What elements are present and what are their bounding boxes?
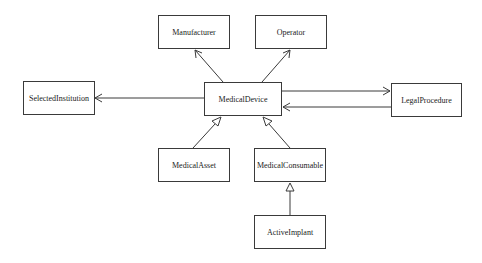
- uml-class-diagram: Manufacturer Operator SelectedInstitutio…: [0, 0, 482, 263]
- class-name: MedicalConsumable: [257, 161, 323, 170]
- class-name: MedicalDevice: [219, 95, 268, 104]
- class-name: SelectedInstitution: [29, 94, 89, 103]
- class-activeimplant: ActiveImplant: [254, 215, 326, 249]
- class-selectedinstitution: SelectedInstitution: [23, 81, 95, 115]
- edge-legalprocedure-to-device: [283, 103, 391, 111]
- edge-consumable-generalizes-device: [263, 117, 290, 148]
- edge-device-to-selectedinstitution: [95, 94, 204, 102]
- class-name: LegalProcedure: [401, 96, 452, 105]
- class-legalprocedure: LegalProcedure: [391, 83, 462, 117]
- edge-device-to-operator: [262, 50, 290, 82]
- class-name: ActiveImplant: [267, 228, 313, 237]
- class-medicalasset: MedicalAsset: [158, 148, 230, 182]
- edge-implant-generalizes-consumable: [286, 183, 294, 215]
- relationship-edges: [0, 0, 482, 263]
- class-name: MedicalAsset: [172, 161, 216, 170]
- edge-asset-generalizes-device: [193, 117, 221, 148]
- class-name: Manufacturer: [172, 28, 216, 37]
- class-medicalconsumable: MedicalConsumable: [254, 148, 326, 182]
- class-medicaldevice: MedicalDevice: [204, 82, 282, 116]
- class-operator: Operator: [255, 15, 327, 49]
- edge-device-to-legalprocedure: [282, 87, 390, 95]
- edge-device-to-manufacturer: [195, 50, 223, 82]
- class-name: Operator: [277, 28, 305, 37]
- class-manufacturer: Manufacturer: [158, 15, 230, 49]
